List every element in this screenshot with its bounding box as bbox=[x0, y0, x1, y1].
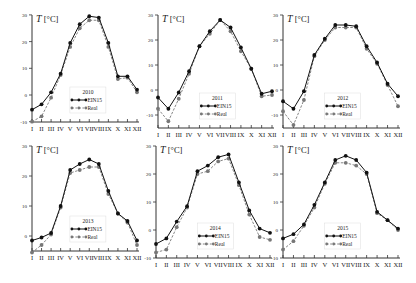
ein15-point bbox=[323, 37, 327, 41]
ein15-point bbox=[229, 26, 233, 30]
y-tick-label: 0 bbox=[25, 234, 28, 239]
legend-ein15: EIN15 bbox=[87, 226, 102, 232]
x-tick-label: III bbox=[173, 261, 180, 268]
y-tick-label: 30 bbox=[22, 13, 28, 18]
x-tick-label: XII bbox=[132, 125, 141, 132]
x-tick-label: I bbox=[157, 131, 159, 138]
real-point bbox=[175, 225, 179, 229]
y-axis-label: T [°C] bbox=[287, 13, 310, 24]
x-tick-label: X bbox=[116, 254, 121, 261]
x-tick-label: XI bbox=[256, 261, 263, 268]
ein15-point bbox=[206, 164, 210, 168]
x-tick-label: VIII bbox=[93, 125, 104, 132]
ein15-point bbox=[164, 237, 168, 241]
real-point bbox=[49, 96, 53, 100]
x-tick-label: II bbox=[166, 131, 170, 138]
ein15-point bbox=[49, 231, 53, 235]
real-point bbox=[78, 168, 82, 172]
ein15-point bbox=[126, 219, 130, 223]
x-tick-label: VIII bbox=[93, 254, 104, 261]
ein15-point bbox=[247, 209, 251, 213]
x-tick-label: II bbox=[291, 261, 295, 268]
x-tick-label: VIII bbox=[351, 131, 362, 138]
ein15-point bbox=[30, 239, 34, 243]
chart-panel-2012: -100102030IIIIIIIVVVIVIIVIIIIXXXIXIIT [°… bbox=[271, 13, 402, 138]
real-point bbox=[281, 109, 285, 113]
ein15-point bbox=[177, 91, 181, 95]
legend-ein15: EIN15 bbox=[342, 233, 357, 239]
ein15-point bbox=[239, 46, 243, 50]
y-tick-label: 30 bbox=[273, 144, 279, 149]
x-tick-label: IX bbox=[237, 131, 244, 138]
ein15-point bbox=[135, 239, 139, 243]
x-tick-label: II bbox=[39, 125, 43, 132]
ein15-point bbox=[281, 237, 285, 241]
real-point bbox=[268, 238, 272, 242]
y-axis-label: T [°C] bbox=[36, 13, 59, 24]
ein15-point bbox=[249, 67, 253, 71]
y-tick-label: 0 bbox=[25, 93, 28, 98]
legend-real: Real bbox=[87, 105, 98, 111]
legend-year: 2010 bbox=[82, 89, 93, 95]
y-tick-label: 30 bbox=[146, 144, 152, 149]
ein15-point bbox=[218, 18, 222, 22]
ein15-point bbox=[49, 90, 53, 94]
y-tick-label: 0 bbox=[276, 228, 279, 233]
y-axis-label: T [°C] bbox=[287, 144, 310, 155]
x-tick-label: I bbox=[31, 254, 33, 261]
y-tick-label: 10 bbox=[273, 200, 279, 205]
y-tick-label: -10 bbox=[20, 120, 27, 125]
y-axis-label: T [°C] bbox=[160, 144, 183, 155]
ein15-point bbox=[312, 203, 316, 207]
legend: 2013EIN15Real bbox=[70, 216, 106, 242]
legend-real: Real bbox=[87, 234, 98, 240]
x-tick-label: VII bbox=[341, 131, 350, 138]
y-tick-label: 20 bbox=[22, 174, 28, 179]
figure: -100102030IIIIIIIVVVIVIIVIIIIXXXIXIIT [°… bbox=[0, 0, 416, 283]
legend-real: Real bbox=[217, 111, 228, 117]
real-point bbox=[354, 164, 358, 168]
legend: 2012EIN15Real bbox=[325, 93, 361, 119]
legend-ein15: EIN15 bbox=[342, 103, 357, 109]
ein15-point bbox=[106, 189, 110, 193]
ein15-point bbox=[78, 162, 82, 166]
y-tick-label: 20 bbox=[273, 38, 279, 43]
y-tick-label: 0 bbox=[276, 88, 279, 93]
y-tick-label: 30 bbox=[148, 13, 154, 18]
ein15-point bbox=[198, 44, 202, 48]
y-tick-label: -10 bbox=[271, 113, 278, 118]
x-tick-label: III bbox=[48, 254, 55, 261]
ein15-point bbox=[292, 232, 296, 236]
chart-panel-2011: -100102030IIIIIIIVVVIVIIVIIIIXXXIXIIT [°… bbox=[146, 13, 276, 138]
x-tick-label: V bbox=[195, 261, 200, 268]
ein15-point bbox=[40, 236, 44, 240]
ein15-point bbox=[375, 61, 379, 65]
y-tick-label: 30 bbox=[22, 144, 28, 149]
ein15-point bbox=[208, 29, 212, 33]
legend-year: 2013 bbox=[82, 218, 93, 224]
real-point bbox=[292, 123, 296, 127]
ein15-point bbox=[281, 99, 285, 103]
ein15-point bbox=[323, 181, 327, 185]
x-tick-label: IX bbox=[235, 261, 242, 268]
x-tick-label: X bbox=[116, 125, 121, 132]
chart-panel-2014: -100102030IIIIIIIVVVIVIIVIIIIXXXIXIIT [°… bbox=[144, 144, 274, 268]
x-tick-label: I bbox=[282, 261, 284, 268]
x-tick-label: VI bbox=[332, 261, 339, 268]
real-point bbox=[40, 243, 44, 247]
x-tick-label: VIII bbox=[351, 261, 362, 268]
x-tick-label: V bbox=[68, 125, 73, 132]
ein15-point bbox=[154, 242, 158, 246]
x-tick-label: VIII bbox=[223, 261, 234, 268]
x-tick-label: XII bbox=[267, 131, 276, 138]
x-tick-label: X bbox=[247, 261, 252, 268]
legend-real: Real bbox=[215, 241, 226, 247]
legend-year: 2012 bbox=[337, 95, 348, 101]
x-tick-label: III bbox=[301, 131, 308, 138]
x-tick-label: XII bbox=[393, 131, 402, 138]
real-point bbox=[292, 239, 296, 243]
real-point bbox=[281, 248, 285, 252]
ein15-point bbox=[365, 44, 369, 48]
x-tick-label: IV bbox=[57, 125, 64, 132]
x-tick-label: IV bbox=[311, 131, 318, 138]
